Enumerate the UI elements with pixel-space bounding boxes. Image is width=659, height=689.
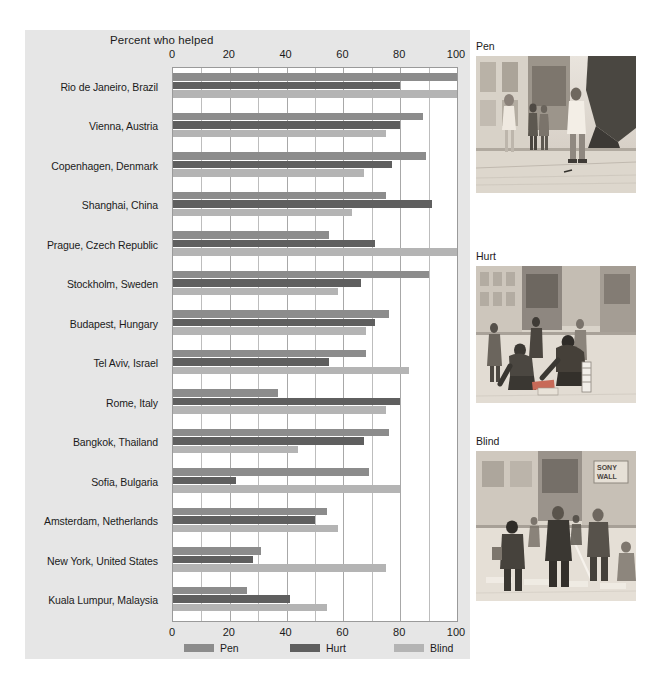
svg-text:WALL: WALL bbox=[597, 473, 618, 480]
bar-hurt bbox=[173, 200, 431, 208]
legend-item-hurt[interactable]: Hurt bbox=[290, 642, 346, 654]
bar-blind bbox=[173, 406, 386, 414]
bar-row: Copenhagen, Denmark bbox=[25, 146, 470, 186]
bar-pen bbox=[173, 192, 386, 200]
bar-hurt bbox=[173, 161, 392, 169]
legend-label: Hurt bbox=[326, 642, 346, 654]
bar-pen bbox=[173, 113, 423, 121]
bar-pen bbox=[173, 152, 426, 160]
bar-blind bbox=[173, 248, 457, 256]
bar-hurt bbox=[173, 556, 253, 564]
bar-row: Amsterdam, Netherlands bbox=[25, 502, 470, 542]
bar-row: Tel Aviv, Israel bbox=[25, 344, 470, 384]
bar-group bbox=[173, 584, 457, 617]
bar-blind bbox=[173, 169, 363, 177]
bar-blind bbox=[173, 604, 326, 612]
bar-pen bbox=[173, 587, 247, 595]
bar-pen bbox=[173, 508, 326, 516]
bar-row: Prague, Czech Republic bbox=[25, 225, 470, 265]
category-label: Copenhagen, Denmark bbox=[25, 160, 165, 172]
x-axis-bottom: 020406080100 bbox=[172, 626, 456, 642]
bar-group bbox=[173, 426, 457, 459]
legend-swatch-blind bbox=[394, 644, 424, 652]
photo-blind: SONY WALL bbox=[476, 451, 636, 601]
bar-rows: Rio de Janeiro, BrazilVienna, AustriaCop… bbox=[25, 67, 470, 620]
category-label: Prague, Czech Republic bbox=[25, 239, 165, 251]
bar-blind bbox=[173, 90, 457, 98]
bar-hurt bbox=[173, 121, 400, 129]
legend-item-blind[interactable]: Blind bbox=[394, 642, 453, 654]
bar-group bbox=[173, 544, 457, 577]
bar-pen bbox=[173, 547, 261, 555]
bar-pen bbox=[173, 271, 429, 279]
bar-pen bbox=[173, 73, 457, 81]
category-label: Kuala Lumpur, Malaysia bbox=[25, 594, 165, 606]
bar-hurt bbox=[173, 437, 363, 445]
bar-row: Budapest, Hungary bbox=[25, 304, 470, 344]
x-axis-top: 020406080100 bbox=[172, 48, 456, 64]
x-tick-20: 20 bbox=[223, 48, 235, 60]
bar-hurt bbox=[173, 319, 375, 327]
bar-group bbox=[173, 505, 457, 538]
bar-blind bbox=[173, 485, 400, 493]
bar-group bbox=[173, 268, 457, 301]
photo-block-hurt: Hurt bbox=[476, 250, 636, 403]
bar-blind bbox=[173, 130, 386, 138]
bar-group bbox=[173, 189, 457, 222]
bar-row: Vienna, Austria bbox=[25, 107, 470, 147]
legend-item-pen[interactable]: Pen bbox=[184, 642, 239, 654]
bar-blind bbox=[173, 367, 409, 375]
x-tick-40: 40 bbox=[279, 626, 291, 638]
chart-panel: Percent who helped 020406080100 Rio de J… bbox=[25, 30, 470, 659]
bar-hurt bbox=[173, 358, 329, 366]
photo-block-pen: Pen bbox=[476, 40, 636, 193]
photo-pen bbox=[476, 56, 636, 193]
chart-title: Percent who helped bbox=[25, 34, 470, 46]
bar-group bbox=[173, 386, 457, 419]
bar-group bbox=[173, 465, 457, 498]
bar-pen bbox=[173, 350, 366, 358]
x-tick-100: 100 bbox=[447, 626, 465, 638]
bar-hurt bbox=[173, 279, 360, 287]
x-tick-20: 20 bbox=[223, 626, 235, 638]
chart-legend: PenHurtBlind bbox=[172, 642, 456, 658]
legend-swatch-pen bbox=[184, 644, 214, 652]
category-label: Sofia, Bulgaria bbox=[25, 476, 165, 488]
bar-group bbox=[173, 307, 457, 340]
svg-text:SONY: SONY bbox=[597, 464, 617, 471]
bar-blind bbox=[173, 288, 338, 296]
bar-hurt bbox=[173, 398, 400, 406]
category-label: New York, United States bbox=[25, 555, 165, 567]
bar-row: New York, United States bbox=[25, 541, 470, 581]
bar-blind bbox=[173, 209, 352, 217]
category-label: Budapest, Hungary bbox=[25, 318, 165, 330]
legend-label: Blind bbox=[430, 642, 453, 654]
category-label: Rio de Janeiro, Brazil bbox=[25, 81, 165, 93]
legend-label: Pen bbox=[220, 642, 239, 654]
category-label: Bangkok, Thailand bbox=[25, 436, 165, 448]
bar-hurt bbox=[173, 595, 289, 603]
bar-pen bbox=[173, 231, 329, 239]
bar-blind bbox=[173, 564, 386, 572]
x-tick-40: 40 bbox=[279, 48, 291, 60]
category-label: Vienna, Austria bbox=[25, 120, 165, 132]
x-tick-60: 60 bbox=[336, 626, 348, 638]
bar-group bbox=[173, 70, 457, 103]
bar-hurt bbox=[173, 516, 315, 524]
x-tick-80: 80 bbox=[393, 626, 405, 638]
bar-hurt bbox=[173, 477, 235, 485]
bar-hurt bbox=[173, 82, 400, 90]
x-tick-0: 0 bbox=[169, 626, 175, 638]
photo-hurt bbox=[476, 266, 636, 403]
photo-caption-hurt: Hurt bbox=[476, 250, 636, 262]
bar-pen bbox=[173, 429, 389, 437]
bar-row: Kuala Lumpur, Malaysia bbox=[25, 581, 470, 621]
bar-row: Rio de Janeiro, Brazil bbox=[25, 67, 470, 107]
bar-row: Bangkok, Thailand bbox=[25, 423, 470, 463]
legend-swatch-hurt bbox=[290, 644, 320, 652]
bar-pen bbox=[173, 468, 369, 476]
bar-row: Shanghai, China bbox=[25, 186, 470, 226]
bar-group bbox=[173, 228, 457, 261]
category-label: Stockholm, Sweden bbox=[25, 278, 165, 290]
category-label: Rome, Italy bbox=[25, 397, 165, 409]
